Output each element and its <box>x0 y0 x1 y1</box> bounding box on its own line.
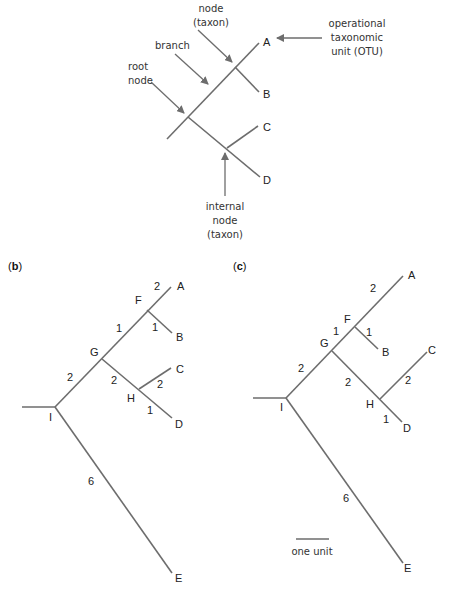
node-label-F: F <box>344 313 351 325</box>
branch-H-to-C <box>380 352 427 399</box>
tip-label-A: A <box>263 36 271 48</box>
node-label-B: B <box>382 346 389 358</box>
branch-length-I-G: 2 <box>298 362 304 374</box>
branch-length-F-A: 2 <box>154 280 160 292</box>
scale-bar-label: one unit <box>291 546 332 557</box>
node-label-H: H <box>127 392 135 404</box>
branch-length-G-H: 2 <box>345 376 351 388</box>
node-label-C: C <box>176 363 184 375</box>
branch-to-C <box>227 126 258 148</box>
branch-root-to-D <box>188 117 260 177</box>
branch-length-G-F: 1 <box>333 325 339 337</box>
node-label-G: G <box>90 346 99 358</box>
node-label-C: C <box>428 344 436 356</box>
svg-text:node: node <box>199 3 224 14</box>
branch-length-H-C: 2 <box>405 374 411 386</box>
annotation-internal-node-bottom: internal node (taxon) <box>206 153 244 240</box>
node-label-I: I <box>49 411 52 423</box>
svg-text:root: root <box>128 61 148 72</box>
svg-text:taxonomic: taxonomic <box>331 32 383 43</box>
branch-root-to-A <box>167 43 259 139</box>
branch-to-B <box>235 67 259 92</box>
node-label-F: F <box>135 294 142 306</box>
panel-b-tree: (b) A B C D E F G H I 2 1 1 2 2 2 1 6 <box>8 260 185 584</box>
branch-length-F-B: 1 <box>152 321 158 333</box>
branch-I-to-E <box>55 407 172 573</box>
panel-a-tree: A B C D internal node (taxon) branch roo… <box>128 0 385 240</box>
branch-I-to-A <box>55 287 171 407</box>
panel-label-c: (c) <box>233 260 246 272</box>
branch-F-to-B <box>147 310 172 333</box>
svg-text:branch: branch <box>155 40 190 51</box>
arrow-icon <box>175 54 208 84</box>
tip-label-B: B <box>263 88 270 100</box>
branch-H-to-C <box>139 368 171 389</box>
annotation-branch: branch <box>155 40 208 84</box>
svg-text:unit (OTU): unit (OTU) <box>331 46 383 57</box>
branch-length-H-C: 2 <box>157 378 163 390</box>
branch-length-I-E: 6 <box>343 492 349 504</box>
node-label-A: A <box>177 280 185 292</box>
node-label-A: A <box>408 269 416 281</box>
branch-length-I-G: 2 <box>67 371 73 383</box>
node-label-D: D <box>403 422 411 434</box>
node-label-I: I <box>280 401 283 413</box>
panel-c-tree: (c) A B C D E F G H I 2 1 1 2 2 2 1 6 on… <box>233 260 436 574</box>
node-label-G: G <box>320 337 329 349</box>
node-label-D: D <box>175 418 183 430</box>
phylogenetic-tree-figure: A B C D internal node (taxon) branch roo… <box>0 0 455 598</box>
annotation-otu: operational taxonomic unit (OTU) <box>277 18 385 57</box>
node-label-H: H <box>366 398 374 410</box>
svg-text:internal: internal <box>206 201 244 212</box>
arrow-icon <box>198 30 232 62</box>
branch-length-F-B: 1 <box>366 326 372 338</box>
node-label-E: E <box>175 572 182 584</box>
tip-label-D: D <box>263 174 271 186</box>
branch-length-H-D: 1 <box>383 413 389 425</box>
svg-text:operational: operational <box>329 18 386 29</box>
svg-text:node: node <box>128 75 153 86</box>
annotation-root-node: root node <box>128 61 184 113</box>
node-label-B: B <box>176 331 183 343</box>
arrow-icon <box>151 82 184 113</box>
annotation-internal-node-top: internal node (taxon) <box>192 0 232 62</box>
svg-text:(taxon): (taxon) <box>207 229 243 240</box>
branch-length-F-A: 2 <box>370 282 376 294</box>
svg-text:node: node <box>213 215 238 226</box>
svg-text:(taxon): (taxon) <box>193 17 229 28</box>
panel-label-b: (b) <box>8 260 22 272</box>
branch-length-G-F: 1 <box>116 322 122 334</box>
branch-length-H-D: 1 <box>147 404 153 416</box>
branch-length-G-H: 2 <box>111 374 117 386</box>
tip-label-C: C <box>263 121 271 133</box>
branch-length-I-E: 6 <box>88 475 94 487</box>
node-label-E: E <box>404 562 411 574</box>
